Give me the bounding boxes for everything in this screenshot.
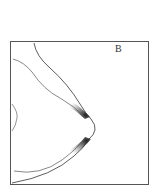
anatomical-illustration: B bbox=[0, 0, 157, 194]
left-arc bbox=[12, 104, 17, 131]
line-drawing bbox=[0, 0, 157, 194]
panel-label: B bbox=[115, 44, 122, 54]
lower-shading bbox=[68, 137, 91, 156]
